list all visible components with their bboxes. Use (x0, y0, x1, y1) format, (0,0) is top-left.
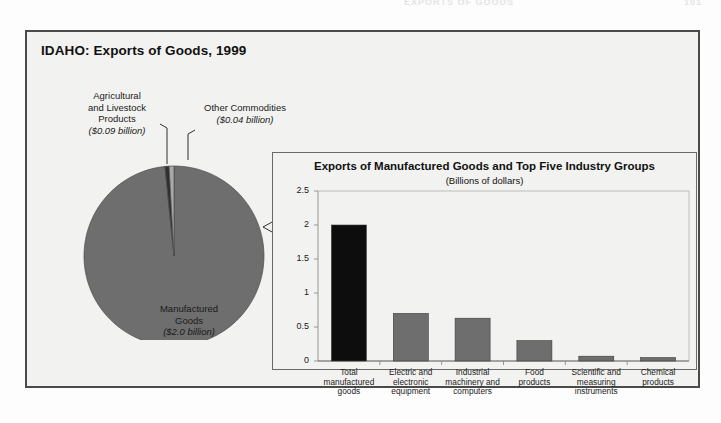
running-head-text: EXPORTS OF GOODS (404, 0, 514, 7)
running-head-page-number: 101 (684, 0, 702, 7)
running-head: EXPORTS OF GOODS 101 (404, 0, 704, 9)
x-tick-label-2: Electric andelectronicequipment (380, 368, 442, 397)
x-tick-label-line: products (627, 378, 689, 388)
x-tick-label-line: goods (318, 387, 380, 397)
x-tick-label-6: Chemicalproducts (627, 368, 689, 387)
y-tick-label-1.5: 1.5 (287, 253, 309, 263)
bar-3[interactable] (455, 318, 490, 361)
pie-label-manufactured-goods: Manufactured Goods ($2.0 billion) (114, 303, 264, 338)
page-canvas: EXPORTS OF GOODS 101 IDAHO: Exports of G… (0, 0, 721, 423)
y-tick-label-2.5: 2.5 (287, 185, 309, 195)
y-tick-label-2: 2 (287, 219, 309, 229)
pie-chart: Agricultural and Livestock Products ($0.… (59, 80, 289, 340)
figure-frame: IDAHO: Exports of Goods, 1999 (25, 30, 700, 388)
pie-label-agricultural-line2: and Livestock (58, 102, 176, 114)
x-tick-label-5: Scientific andmeasuringinstruments (565, 368, 627, 397)
y-axis-ticks (314, 191, 318, 361)
bar-chart-panel: Exports of Manufactured Goods and Top Fi… (272, 152, 697, 370)
x-tick-label-4: Foodproducts (504, 368, 566, 387)
x-tick-label-line: computers (442, 387, 504, 397)
pie-label-manufactured-line2: Goods (114, 315, 264, 327)
bar-5[interactable] (579, 356, 614, 361)
pie-label-other-line1: Other Commodities (181, 102, 309, 114)
pie-label-agricultural-line1: Agricultural (58, 90, 176, 102)
figure-title: IDAHO: Exports of Goods, 1999 (41, 43, 246, 58)
x-tick-label-line: instruments (565, 387, 627, 397)
bar-chart-graphic (273, 153, 698, 371)
bar-series (331, 225, 675, 361)
x-tick-label-line: equipment (380, 387, 442, 397)
bar-6[interactable] (641, 358, 676, 361)
y-tick-label-1: 1 (287, 287, 309, 297)
y-tick-label-0: 0 (287, 355, 309, 365)
y-tick-label-0.5: 0.5 (287, 321, 309, 331)
pie-label-other-amount: ($0.04 billion) (181, 114, 309, 126)
x-tick-label-1: Totalmanufacturedgoods (318, 368, 380, 397)
pie-label-manufactured-line1: Manufactured (114, 303, 264, 315)
x-axis-ticks (380, 361, 627, 365)
pie-label-agricultural-amount: ($0.09 billion) (58, 125, 176, 137)
x-tick-label-line: products (504, 378, 566, 388)
x-tick-label-3: Industrialmachinery andcomputers (442, 368, 504, 397)
bar-4[interactable] (517, 341, 552, 361)
pie-label-agricultural: Agricultural and Livestock Products ($0.… (58, 90, 176, 136)
bar-1[interactable] (331, 225, 366, 361)
pie-label-other-commodities: Other Commodities ($0.04 billion) (181, 102, 309, 125)
bar-2[interactable] (393, 313, 428, 361)
pie-label-manufactured-amount: ($2.0 billion) (114, 326, 264, 338)
pie-label-agricultural-line3: Products (58, 113, 176, 125)
